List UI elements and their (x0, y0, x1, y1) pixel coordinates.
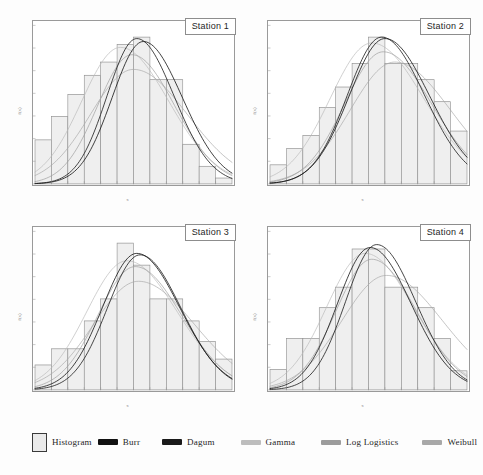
legend-item-gamma: Gamma (241, 437, 296, 447)
panel-station-3: f(x) Station 3 x (14, 220, 241, 414)
legend-label-dagum: Dagum (187, 437, 215, 447)
figure-canvas: f(x) Station 1 x f(x) Station 2 x f(x) S… (0, 0, 483, 475)
histogram-bar (401, 64, 417, 184)
burr-line-icon (98, 439, 118, 445)
station-label-2: Station 2 (420, 18, 471, 35)
histogram-bar (183, 321, 199, 390)
panel-station-2: f(x) Station 2 x (249, 14, 476, 208)
histogram-bar (319, 108, 335, 184)
x-axis-label-1: x (14, 197, 241, 202)
station-label-3: Station 3 (185, 224, 236, 241)
panel-station-1: f(x) Station 1 x (14, 14, 241, 208)
station-label-4: Station 4 (420, 224, 471, 241)
histogram-bar (352, 249, 368, 390)
y-axis-label-3: f(x) (17, 313, 22, 321)
histogram-bar (134, 37, 150, 184)
x-axis-label-2: x (249, 197, 476, 202)
histogram-bar (199, 341, 215, 389)
plot-area-1 (32, 20, 235, 186)
panel-grid: f(x) Station 1 x f(x) Station 2 x f(x) S… (14, 14, 476, 414)
plot-area-3 (32, 226, 235, 392)
weibull-line-icon (422, 440, 442, 445)
histogram-bar (434, 339, 450, 390)
histogram-bar (134, 265, 150, 390)
legend-label-histogram: Histogram (52, 437, 92, 447)
panel-station-4: f(x) Station 4 x (249, 220, 476, 414)
histogram-swatch-icon (32, 433, 47, 452)
plot-svg-1 (33, 21, 234, 185)
legend: Histogram Burr Dagum Gamma Log Logistics… (14, 424, 476, 460)
y-axis-label-2: f(x) (252, 107, 257, 115)
histogram-bar (150, 299, 166, 390)
histogram-bar (117, 243, 133, 390)
legend-item-weibull: Weibull (422, 437, 477, 447)
legend-label-weibull: Weibull (447, 437, 477, 447)
histogram-bar (336, 87, 352, 184)
legend-item-log-logistics: Log Logistics (321, 437, 398, 447)
x-axis-label-4: x (249, 403, 476, 408)
histogram-bar (303, 339, 319, 390)
histogram-bar (150, 80, 166, 184)
plot-svg-4 (268, 227, 469, 391)
plot-area-2 (267, 20, 470, 186)
plot-svg-3 (33, 227, 234, 391)
y-axis-label-4: f(x) (252, 313, 257, 321)
histogram-bar (101, 299, 117, 390)
histogram-bar (199, 166, 215, 184)
log-logistics-line-icon (321, 440, 341, 445)
histogram-bar (369, 249, 385, 390)
histogram-bar (216, 178, 232, 184)
histogram-bar (369, 37, 385, 184)
legend-item-burr: Burr (98, 437, 140, 447)
histogram-bar (401, 287, 417, 390)
gamma-line-icon (241, 440, 261, 445)
histogram-bar (385, 287, 401, 390)
y-axis-label-1: f(x) (17, 107, 22, 115)
histogram-bar (183, 144, 199, 184)
legend-label-log-logistics: Log Logistics (346, 437, 398, 447)
histogram-bar (117, 44, 133, 183)
legend-label-gamma: Gamma (266, 437, 296, 447)
histogram-bar (385, 64, 401, 184)
legend-item-histogram: Histogram (32, 433, 92, 452)
station-label-1: Station 1 (185, 18, 236, 35)
plot-area-4 (267, 226, 470, 392)
x-axis-label-3: x (14, 403, 241, 408)
histogram-bar (418, 308, 434, 390)
legend-label-burr: Burr (123, 437, 140, 447)
dagum-line-icon (162, 439, 182, 445)
plot-svg-2 (268, 21, 469, 185)
histogram-bar (434, 102, 450, 184)
legend-item-dagum: Dagum (162, 437, 215, 447)
